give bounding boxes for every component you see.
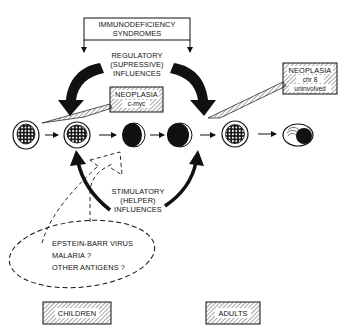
neoplasia-chr8-pointer: [208, 82, 286, 118]
cell-1: [13, 121, 39, 149]
svg-text:STIMULATORY: STIMULATORY: [112, 187, 165, 196]
stimulatory-arrow-right-icon: [165, 162, 196, 206]
antigen-other: OTHER ANTIGENS ?: [52, 263, 125, 272]
svg-text:INFLUENCES: INFLUENCES: [113, 69, 161, 78]
cell-3: [122, 123, 145, 147]
children-box: CHILDREN: [43, 302, 111, 324]
stimulatory-arrowhead-right-icon: [189, 150, 204, 166]
cell-5: [222, 121, 248, 147]
svg-text:INFLUENCES: INFLUENCES: [114, 205, 162, 214]
immunodeficiency-box: IMMUNODEFICIENCY SYNDROMES: [84, 18, 190, 52]
antigen-malaria: MALARIA ?: [52, 251, 91, 260]
stimulatory-arrowhead-left-icon: [70, 150, 86, 166]
cell-6: [283, 124, 313, 146]
immunodeficiency-label-line1: IMMUNODEFICIENCY: [98, 20, 175, 29]
svg-text:REGULATORY: REGULATORY: [111, 51, 162, 60]
svg-text:chr 8: chr 8: [303, 76, 318, 83]
neoplasia-cmyc-box: NEOPLASIA c-myc: [42, 87, 163, 123]
neoplasia-chr8-box: NEOPLASIA chr 8 uninvolved: [208, 63, 337, 118]
svg-text:ADULTS: ADULTS: [218, 309, 247, 318]
antigen-ebv: EPSTEIN-BARR VIRUS: [52, 239, 133, 248]
regulatory-arrow-right-icon: [170, 63, 216, 116]
antigen-influence-arrow: [42, 152, 122, 243]
diagram-canvas: IMMUNODEFICIENCY SYNDROMES REGULATORY (S…: [0, 0, 351, 336]
antigens-group: EPSTEIN-BARR VIRUS MALARIA ? OTHER ANTIG…: [6, 214, 158, 295]
svg-text:(SUPRESSIVE): (SUPRESSIVE): [110, 60, 163, 69]
stimulatory-label: STIMULATORY (HELPER) INFLUENCES: [112, 187, 165, 214]
cell-4: [167, 123, 192, 147]
svg-text:NEOPLASIA: NEOPLASIA: [115, 90, 158, 99]
svg-text:(HELPER): (HELPER): [120, 196, 155, 205]
cell-2: [64, 122, 90, 148]
svg-text:NEOPLASIA: NEOPLASIA: [289, 66, 332, 75]
regulatory-label: REGULATORY (SUPRESSIVE) INFLUENCES: [110, 51, 163, 78]
immunodeficiency-label-line2: SYNDROMES: [113, 29, 162, 38]
svg-text:CHILDREN: CHILDREN: [58, 309, 97, 318]
svg-text:uninvolved: uninvolved: [294, 85, 326, 92]
adults-box: ADULTS: [206, 302, 260, 324]
svg-text:c-myc: c-myc: [128, 100, 146, 108]
